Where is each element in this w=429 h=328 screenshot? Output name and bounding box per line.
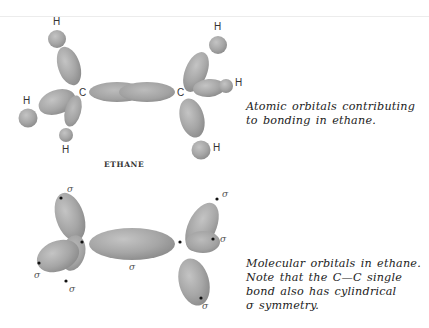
hydrogen-label-top-left: H (53, 16, 60, 27)
sigma-orbital-right-mid (186, 231, 220, 253)
carbon-label-right: C (177, 87, 184, 98)
molecular-orbitals-group: σ σ σ σ σ σ σ (32, 184, 229, 311)
nucleus-dot (59, 196, 62, 199)
h-orbital-mid-right (219, 79, 233, 93)
caption-line: Molecular orbitals in ethane. (246, 257, 421, 271)
sigma-label-right-mid: σ (220, 234, 227, 244)
caption-line: Atomic orbitals contributing (246, 100, 415, 114)
sigma-label-left-top: σ (67, 184, 74, 194)
hydrogen-label-mid-left: H (23, 95, 30, 106)
atomic-orbitals-group: C C H H H H H H (19, 16, 243, 160)
nucleus-dot (215, 197, 218, 200)
sigma-orbital-left-top (49, 189, 91, 245)
sigma-label-right-bottom: σ (202, 301, 209, 311)
nucleus-dot (64, 279, 67, 282)
nucleus-dot (199, 296, 202, 299)
atomic-orbitals-caption: Atomic orbitals contributing to bonding … (246, 100, 415, 128)
molecular-orbitals-caption: Molecular orbitals in ethane. Note that … (246, 257, 421, 313)
sp3-lobe-right-down (175, 96, 209, 141)
caption-line: to bonding in ethane. (246, 114, 415, 128)
h-orbital-top-right (209, 36, 227, 54)
sigma-label-center: σ (129, 262, 136, 272)
nucleus-dot (178, 240, 181, 243)
nucleus-dot (211, 237, 214, 240)
h-orbital-mid-left (19, 109, 38, 128)
nucleus-dot (37, 261, 40, 264)
hydrogen-label-bottom-right: H (213, 142, 220, 153)
h-orbital-bottom-left (59, 128, 73, 142)
hydrogen-label-top-right: H (214, 21, 221, 32)
sigma-label-left-bottom: σ (69, 284, 76, 294)
caption-line: σ symmetry. (246, 299, 421, 313)
nucleus-dot (80, 240, 83, 243)
hydrogen-label-bottom-left: H (62, 144, 69, 155)
h-orbital-bottom-right (192, 141, 211, 160)
sigma-orbital-right-bottom (173, 255, 214, 309)
caption-line: bond also has cylindrical (246, 285, 421, 299)
ethane-label: ETHANE (104, 160, 144, 169)
sigma-label-left-mid: σ (34, 270, 41, 280)
caption-line: Note that the C—C single (246, 271, 421, 285)
h-orbital-top-left (48, 30, 66, 48)
sp3-lobe-center-right (119, 82, 175, 102)
sigma-label-right-top: σ (222, 189, 229, 199)
hydrogen-label-mid-right: H (235, 77, 242, 88)
carbon-label-left: C (79, 87, 86, 98)
sigma-orbital-center (89, 228, 175, 260)
sp3-lobe-left-up (52, 44, 85, 89)
